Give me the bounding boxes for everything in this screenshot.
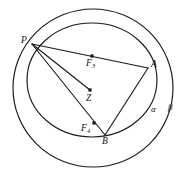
segment-p-b [32, 44, 105, 135]
point-label-b: B [102, 137, 108, 147]
circle-alpha-outline [27, 23, 157, 137]
point-dot-z [88, 88, 91, 91]
segment-a-b [105, 68, 148, 135]
point-label-z: Z [86, 94, 91, 104]
segment-p-z [32, 44, 90, 90]
geometry-figure: P A B Z F3 F4 α β [0, 0, 184, 186]
point-label-a: A [151, 60, 157, 70]
figure-canvas [0, 0, 184, 186]
point-label-f4: F4 [81, 124, 90, 134]
point-label-p: P [21, 36, 27, 46]
circle-beta-outline [13, 9, 173, 167]
curve-label-beta: β [168, 103, 172, 112]
curve-label-alpha: α [151, 105, 156, 114]
point-dot-f4 [92, 121, 95, 124]
point-label-f3: F3 [86, 59, 95, 69]
